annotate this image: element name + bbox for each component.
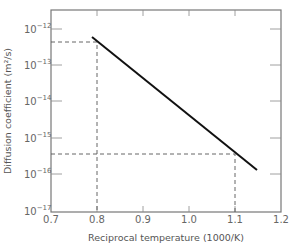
y-tick-labels: 10−12 10−13 10−14 10−15 10−16 10−17 [24,22,52,217]
x-axis-title: Reciprocal temperature (1000/K) [88,232,244,243]
svg-text:0.9: 0.9 [135,214,151,225]
svg-text:1.0: 1.0 [181,214,197,225]
dashed-guides [51,42,235,212]
svg-text:0.7: 0.7 [43,214,59,225]
svg-text:10−12: 10−12 [24,22,52,35]
plot-frame [51,10,281,212]
chart: 10−12 10−13 10−14 10−15 10−16 10−17 0.7 … [0,0,296,252]
guide-0-8 [51,42,97,212]
svg-text:1.2: 1.2 [273,214,289,225]
x-ticks [97,10,235,212]
x-tick-labels: 0.7 0.8 0.9 1.0 1.1 1.2 [43,214,289,225]
guide-1-1 [51,154,235,212]
svg-text:10−14: 10−14 [24,94,52,107]
svg-text:0.8: 0.8 [89,214,105,225]
svg-text:1.1: 1.1 [227,214,243,225]
svg-text:10−16: 10−16 [24,167,52,180]
svg-text:10−15: 10−15 [24,131,52,144]
y-ticks [51,29,281,174]
svg-text:10−13: 10−13 [24,58,52,71]
y-axis-title: Diffusion coefficient (m²/s) [2,48,13,174]
diffusion-line [92,37,257,170]
